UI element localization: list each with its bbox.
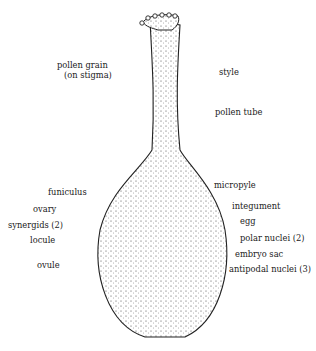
- label-synergids: synergids (2): [8, 221, 63, 230]
- pistil-diagram: [0, 0, 316, 351]
- label-funiculus: funiculus: [48, 188, 87, 197]
- ovary-wall: [98, 20, 227, 337]
- label-egg: egg: [240, 217, 256, 226]
- label-antipodal-nuclei: antipodal nuclei (3): [229, 265, 311, 274]
- label-micropyle: micropyle: [214, 181, 256, 190]
- label-embryo-sac: embryo sac: [235, 250, 283, 259]
- label-polar-nuclei: polar nuclei (2): [240, 234, 304, 243]
- label-ovary: ovary: [33, 205, 56, 214]
- label-ovule: ovule: [37, 261, 60, 270]
- label-on-stigma: (on stigma): [64, 71, 112, 80]
- label-integument: integument: [232, 202, 280, 211]
- label-pollen-grain: pollen grain: [57, 61, 108, 70]
- label-locule: locule: [30, 236, 55, 245]
- label-pollen-tube: pollen tube: [215, 108, 262, 117]
- label-style: style: [219, 68, 239, 77]
